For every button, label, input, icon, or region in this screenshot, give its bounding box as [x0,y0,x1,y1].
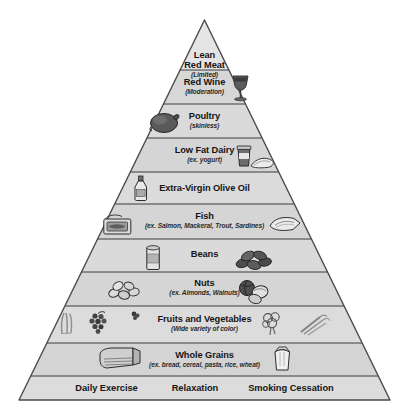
food-pyramid-diagram: Lean Red Meat (Limited) Red Wine (Modera… [0,0,409,416]
pyramid-shape [0,0,409,416]
bread-loaf-icon [100,348,140,368]
yogurt-cup-icon [237,146,251,166]
pyramid-tiers [0,18,409,402]
rice-bag-icon [275,347,290,370]
bean-can-icon [147,246,160,270]
